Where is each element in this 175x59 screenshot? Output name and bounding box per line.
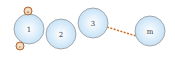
node-1-label: 1 (27, 26, 31, 34)
diagram-canvas: 1 2 3 m a r (0, 0, 175, 59)
node-2[interactable]: 2 (46, 19, 76, 49)
node-2-label: 2 (59, 31, 63, 39)
bottom-marker[interactable]: r (16, 42, 24, 50)
node-m[interactable]: m (135, 16, 165, 46)
top-marker[interactable]: a (24, 7, 32, 15)
node-1[interactable]: 1 (14, 14, 44, 44)
node-3-label: 3 (91, 20, 95, 28)
node-m-label: m (147, 28, 154, 36)
dashed-connector (107, 27, 136, 36)
node-3[interactable]: 3 (78, 8, 108, 38)
bottom-marker-label: r (19, 44, 21, 49)
